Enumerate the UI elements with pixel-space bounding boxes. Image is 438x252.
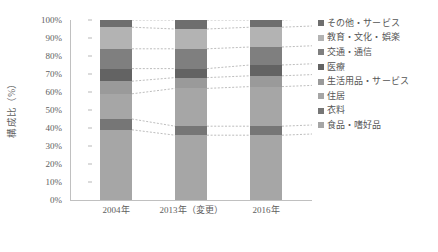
legend-item-label: 衣料 — [327, 106, 345, 115]
bar-segment[interactable] — [250, 76, 282, 87]
legend-item-label: 生活用品・サービス — [327, 77, 409, 86]
legend-item[interactable]: 生活用品・サービス — [318, 74, 438, 89]
bar-column[interactable] — [175, 20, 207, 200]
y-axis-tick-label: 50% — [46, 105, 63, 115]
bar-segment[interactable] — [250, 20, 282, 27]
legend-item[interactable]: 食品・嗜好品 — [318, 118, 438, 133]
legend-swatch-icon — [318, 93, 324, 99]
legend-item-label: 食品・嗜好品 — [327, 121, 382, 130]
bar-segment[interactable] — [250, 65, 282, 76]
bar-segment[interactable] — [100, 20, 132, 27]
connector-line — [282, 125, 312, 126]
bar-segment[interactable] — [175, 78, 207, 89]
connector-line — [207, 47, 250, 49]
legend-item-label: 医療 — [327, 63, 345, 72]
bar-segment[interactable] — [175, 69, 207, 78]
legend-swatch-icon — [318, 49, 324, 55]
x-axis-tick-label: 2004年 — [103, 203, 130, 216]
bar-segment[interactable] — [250, 27, 282, 47]
legend-item[interactable]: 衣料 — [318, 104, 438, 119]
connector-line — [132, 27, 175, 29]
bar-segment[interactable] — [250, 135, 282, 200]
bar-segment[interactable] — [100, 130, 132, 200]
connector-line — [282, 46, 312, 47]
legend-item[interactable]: その他・サービス — [318, 16, 438, 31]
plot-area — [70, 20, 312, 200]
x-axis-tick-labels: 2004年2013年（変更）2016年 — [70, 203, 312, 223]
legend-item[interactable]: 医療 — [318, 60, 438, 75]
legend-item-label: 教育・文化・娯楽 — [327, 33, 400, 42]
x-axis-tick-label: 2013年（変更） — [160, 203, 223, 216]
connector-line — [207, 27, 250, 29]
bar-column[interactable] — [250, 20, 282, 200]
y-axis-title: 構成比（%） — [0, 0, 22, 215]
connector-line — [132, 88, 175, 93]
bar-segment[interactable] — [250, 126, 282, 135]
y-axis-tick-label: 10% — [46, 177, 63, 187]
legend-item-label: その他・サービス — [327, 19, 400, 28]
bar-column[interactable] — [100, 20, 132, 200]
bar-segment[interactable] — [100, 94, 132, 119]
legend-item-label: 交通・通信 — [327, 48, 373, 57]
x-axis-line — [70, 200, 312, 201]
bar-segment[interactable] — [100, 49, 132, 69]
y-axis-tick-label: 80% — [46, 51, 63, 61]
legend-swatch-icon — [318, 64, 324, 70]
legend-swatch-icon — [318, 35, 324, 41]
legend-swatch-icon — [318, 108, 324, 114]
y-axis-tick-label: 30% — [46, 141, 63, 151]
y-axis-tick-label: 100% — [41, 15, 62, 25]
y-axis-tick-label: 70% — [46, 69, 63, 79]
bar-segment[interactable] — [175, 135, 207, 200]
y-axis-title-text: 構成比（%） — [4, 78, 18, 137]
y-axis-tick-labels: 0%10%20%30%40%50%60%70%80%90%100% — [22, 20, 66, 200]
connector-line — [207, 65, 250, 69]
bar-segment[interactable] — [175, 20, 207, 29]
bar-segment[interactable] — [100, 119, 132, 130]
y-axis-line — [70, 20, 71, 200]
bar-segment[interactable] — [100, 27, 132, 49]
connector-line — [282, 75, 312, 76]
bar-segment[interactable] — [100, 81, 132, 94]
legend-swatch-icon — [318, 20, 324, 26]
bar-segment[interactable] — [175, 29, 207, 49]
connector-line — [282, 26, 312, 27]
legend-item[interactable]: 交通・通信 — [318, 45, 438, 60]
bar-segment[interactable] — [250, 87, 282, 127]
connector-line — [282, 64, 312, 65]
y-axis-tick-label: 0% — [50, 195, 62, 205]
legend-swatch-icon — [318, 79, 324, 85]
x-axis-tick-label: 2016年 — [253, 203, 280, 216]
chart-legend: その他・サービス教育・文化・娯楽交通・通信医療生活用品・サービス住居衣料食品・嗜… — [318, 16, 438, 133]
connector-line — [282, 85, 312, 86]
bar-segment[interactable] — [175, 126, 207, 135]
bar-segment[interactable] — [100, 69, 132, 82]
connector-line — [207, 76, 250, 78]
connector-line — [132, 78, 175, 82]
y-axis-tick-label: 60% — [46, 87, 63, 97]
y-axis-tick-label: 90% — [46, 33, 63, 43]
legend-swatch-icon — [318, 122, 324, 128]
stacked-bar-chart: 構成比（%） 0%10%20%30%40%50%60%70%80%90%100%… — [0, 0, 438, 252]
y-axis-tick-label: 40% — [46, 123, 63, 133]
bar-segment[interactable] — [175, 88, 207, 126]
legend-item-label: 住居 — [327, 92, 345, 101]
connector-line — [132, 119, 175, 126]
bar-segment[interactable] — [175, 49, 207, 69]
bar-segment[interactable] — [250, 47, 282, 65]
legend-item[interactable]: 住居 — [318, 89, 438, 104]
y-axis-tick-label: 20% — [46, 159, 63, 169]
connector-line — [282, 134, 312, 135]
connector-line — [132, 130, 175, 135]
connector-line — [207, 87, 250, 89]
legend-item[interactable]: 教育・文化・娯楽 — [318, 31, 438, 46]
